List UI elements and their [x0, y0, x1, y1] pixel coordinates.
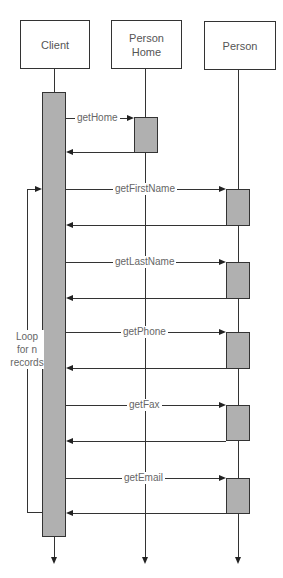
loop-label-line2: for n: [17, 344, 37, 355]
activation-person-getemail: [226, 478, 250, 514]
participant-client: Client: [20, 20, 90, 69]
return-getfax-line: [72, 441, 226, 442]
message-gethome-arrow-icon: [127, 115, 134, 121]
return-getfirstname-line: [72, 225, 226, 226]
return-getphone-line: [72, 368, 226, 369]
participant-person-label: Person: [223, 39, 258, 53]
message-getemail-label: getEmail: [122, 472, 165, 484]
activation-person-getlastname: [226, 262, 250, 299]
lifeline-client-bottom: [54, 536, 55, 558]
participant-client-label: Client: [41, 38, 69, 52]
message-getphone-arrow-icon: [219, 329, 226, 335]
activation-person-getphone: [226, 332, 250, 369]
loop-label: Loop for n records: [10, 330, 44, 369]
lifeline-client-top: [54, 69, 55, 92]
message-getlastname-arrow-icon: [219, 259, 226, 265]
loop-bracket-arrow-icon: [35, 186, 42, 192]
return-getphone-arrow-icon: [66, 365, 73, 371]
participant-person-home: Person Home: [111, 20, 182, 69]
lifeline-person-end-arrow-icon: [235, 557, 241, 564]
return-getlastname-arrow-icon: [66, 295, 73, 301]
return-getemail-line: [72, 513, 226, 514]
return-getfirstname-arrow-icon: [66, 222, 73, 228]
message-getfirstname-label: getFirstName: [113, 183, 177, 195]
message-getemail-arrow-icon: [219, 475, 226, 481]
activation-client: [42, 92, 66, 537]
message-getfax-label: getFax: [127, 399, 162, 411]
activation-person-getfax: [226, 405, 250, 441]
participant-person-home-label-line1: Person: [129, 32, 164, 44]
participant-person-home-label-line2: Home: [132, 46, 161, 58]
activation-person-getfirstname: [226, 189, 250, 226]
message-getlastname-label: getLastName: [113, 256, 176, 268]
message-getfirstname-arrow-icon: [219, 186, 226, 192]
message-getphone-label: getPhone: [121, 326, 168, 338]
return-gethome-line: [72, 152, 134, 153]
participant-person: Person: [204, 21, 276, 70]
loop-bracket-bottom: [27, 512, 42, 513]
loop-label-line1: Loop: [16, 331, 38, 342]
return-getlastname-line: [72, 298, 226, 299]
return-getfax-arrow-icon: [66, 438, 73, 444]
message-gethome-label: getHome: [75, 112, 120, 124]
activation-person-home-gethome: [134, 117, 158, 153]
lifeline-person-home-end-arrow-icon: [142, 557, 148, 564]
return-gethome-arrow-icon: [66, 149, 73, 155]
lifeline-client-end-arrow-icon: [51, 557, 57, 564]
message-getfax-arrow-icon: [219, 402, 226, 408]
return-getemail-arrow-icon: [66, 510, 73, 516]
participant-person-home-label: Person Home: [129, 31, 164, 59]
loop-label-line3: records: [10, 357, 43, 368]
